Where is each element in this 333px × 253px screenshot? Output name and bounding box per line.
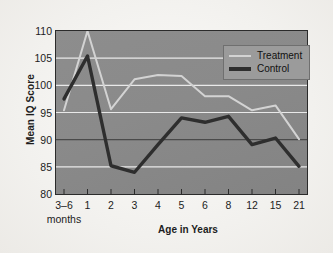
x-tick-label: 8 [226, 199, 232, 211]
legend-label-control: Control [257, 63, 289, 74]
plot-area: 11010510095908580 3–61234568121521months… [55, 30, 308, 195]
chart-legend: Treatment Control [223, 45, 310, 80]
x-tick-label: 4 [155, 199, 161, 211]
x-tick-label: 3 [132, 199, 138, 211]
chart-figure: Mean IQ Score Age in Years 1101051009590… [8, 8, 325, 245]
y-tick-label: 110 [35, 25, 52, 37]
x-tick-sublabel-months: months [47, 213, 81, 225]
y-axis-title: Mean IQ Score [25, 62, 36, 158]
x-tick-label: 2 [108, 199, 114, 211]
x-tick-label: 12 [246, 199, 258, 211]
legend-swatch-treatment-icon [229, 55, 251, 57]
legend-swatch-control-icon [229, 67, 251, 71]
screenshot-root: Mean IQ Score Age in Years 1101051009590… [0, 0, 333, 253]
x-tick-label: 21 [293, 199, 305, 211]
x-tick-label: 1 [85, 199, 91, 211]
x-axis-title: Age in Years [68, 224, 308, 235]
y-tick-label: 105 [34, 52, 52, 64]
x-tick-label: 5 [179, 199, 185, 211]
x-tick-label: 3–6 [55, 199, 73, 211]
y-tick-label: 85 [40, 161, 52, 173]
legend-item-treatment: Treatment [229, 49, 302, 62]
legend-label-treatment: Treatment [257, 50, 302, 61]
y-tick-label: 95 [40, 107, 52, 119]
y-tick-label: 90 [40, 134, 52, 146]
legend-item-control: Control [229, 62, 302, 75]
x-tick-label: 15 [270, 199, 282, 211]
axis-ticks [64, 189, 299, 194]
y-tick-label: 100 [34, 79, 52, 91]
y-tick-label: 80 [40, 188, 52, 200]
x-tick-label: 6 [202, 199, 208, 211]
